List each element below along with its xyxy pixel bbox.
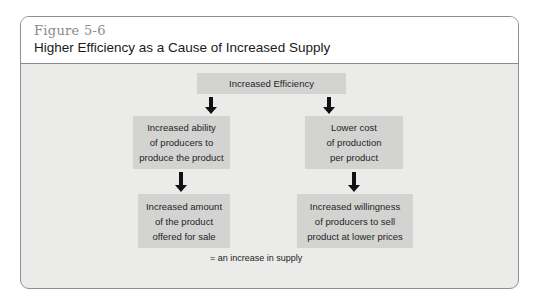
legend-increase-in-supply: = an increase in supply <box>210 253 302 263</box>
arrow-down-icon <box>348 172 360 192</box>
node-increased-willingness: Increased willingness of producers to se… <box>297 194 413 248</box>
node-lower-cost: Lower cost of production per product <box>305 116 403 169</box>
arrow-down-icon <box>323 97 335 115</box>
arrow-down-icon <box>175 172 187 192</box>
figure-title: Higher Efficiency as a Cause of Increase… <box>34 40 330 55</box>
arrow-down-icon <box>205 97 217 115</box>
node-increased-ability: Increased ability of producers to produc… <box>133 116 230 169</box>
figure-frame: Figure 5-6 Higher Efficiency as a Cause … <box>20 16 519 289</box>
node-increased-efficiency: Increased Efficiency <box>197 73 346 94</box>
figure-number: Figure 5-6 <box>34 23 106 38</box>
figure-header: Figure 5-6 Higher Efficiency as a Cause … <box>21 17 518 64</box>
node-increased-amount: Increased amount of the product offered … <box>138 194 230 248</box>
